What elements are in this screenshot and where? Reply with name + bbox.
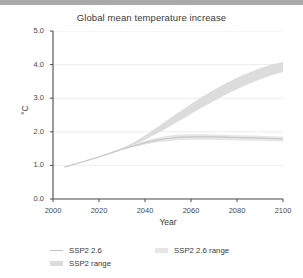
y-tick-label: 0.0 <box>0 195 44 203</box>
y-tick-label: 4.0 <box>0 61 44 69</box>
legend-swatch-band-light-icon <box>155 248 168 253</box>
chart-title: Global mean temperature increase <box>0 12 303 23</box>
line-ssp26 <box>65 137 284 167</box>
legend-swatch-band-icon <box>50 261 63 266</box>
legend-entry[interactable]: SSP2 range <box>50 259 111 268</box>
x-tick-label: 2060 <box>171 207 211 215</box>
plot-svg <box>53 31 283 199</box>
legend-entry[interactable]: SSP2 2.6 range <box>155 246 229 255</box>
x-tick-label: 2100 <box>263 207 303 215</box>
y-tick-label: 2.0 <box>0 128 44 136</box>
x-axis-label: Year <box>53 217 283 227</box>
legend-label: SSP2 2.6 range <box>174 246 229 255</box>
x-axis-tick-labels: 200020202040206020802100 <box>53 204 283 218</box>
legend-entry[interactable]: SSP2 2.6 <box>50 246 102 255</box>
x-tick-label: 2080 <box>217 207 257 215</box>
chart-screenshot: Global mean temperature increase °C 0.01… <box>0 0 303 278</box>
chart-figure: Global mean temperature increase °C 0.01… <box>0 5 303 278</box>
x-tick-label: 2040 <box>125 207 165 215</box>
legend-swatch-line-icon <box>50 250 63 251</box>
ssp2-range-band <box>65 62 284 167</box>
y-tick-label: 1.0 <box>0 161 44 169</box>
legend-label: SSP2 range <box>69 259 111 268</box>
ssp2-26-line <box>65 137 284 167</box>
y-tick-label: 5.0 <box>0 27 44 35</box>
y-tick-label: 3.0 <box>0 94 44 102</box>
legend-label: SSP2 2.6 <box>69 246 102 255</box>
ssp2-26-range-band <box>65 134 284 167</box>
chart-legend: SSP2 2.6SSP2 2.6 rangeSSP2 range <box>0 243 303 278</box>
x-tick-label: 2000 <box>33 207 73 215</box>
plot-area <box>53 31 283 199</box>
x-tick-label: 2020 <box>79 207 119 215</box>
gridlines <box>53 31 283 199</box>
y-axis-tick-labels: 0.01.02.03.04.05.0 <box>0 31 50 199</box>
band-ssp26 <box>65 134 284 167</box>
band-ssp2 <box>65 62 284 167</box>
